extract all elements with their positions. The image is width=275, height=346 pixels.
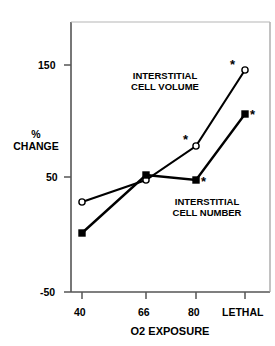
y-axis-title-line2: CHANGE [8, 140, 64, 152]
series-annotation-cell-number-line2: CELL NUMBER [152, 207, 262, 218]
data-point-number-40 [78, 229, 85, 236]
x-tick-label-66: 66 [138, 306, 150, 318]
data-point-volume-lethal [242, 67, 248, 73]
significance-star-volume-lethal: * [230, 57, 235, 72]
significance-star-volume-80: * [183, 132, 188, 147]
series-annotation-cell-volume: INTERSTITIAL CELL VOLUME [110, 70, 220, 92]
x-tick-label-lethal: LETHAL [222, 306, 263, 318]
data-point-number-66 [142, 171, 149, 178]
y-tick-label-neg50: -50 [40, 286, 55, 298]
y-axis-title: % CHANGE [8, 128, 64, 152]
x-tick-label-40: 40 [74, 306, 86, 318]
y-axis-title-line1: % [8, 128, 64, 140]
data-point-number-80 [192, 176, 199, 183]
series-annotation-cell-volume-line1: INTERSTITIAL [110, 70, 220, 81]
y-tick-label-50: 50 [46, 171, 58, 183]
significance-star-number-lethal: * [250, 107, 255, 122]
data-point-number-lethal [241, 110, 248, 117]
series-annotation-cell-number: INTERSTITIAL CELL NUMBER [152, 196, 262, 218]
significance-star-number-80: * [201, 174, 206, 189]
x-axis-title: O2 EXPOSURE [90, 325, 250, 337]
data-point-volume-40 [79, 199, 85, 205]
y-tick-label-150: 150 [38, 59, 56, 71]
chart-figure: * * * * 150 50 -50 % CHANGE 40 66 80 LET… [0, 0, 275, 346]
series-annotation-cell-volume-line2: CELL VOLUME [110, 81, 220, 92]
data-point-volume-80 [193, 143, 199, 149]
series-annotation-cell-number-line1: INTERSTITIAL [152, 196, 262, 207]
x-tick-label-80: 80 [188, 306, 200, 318]
